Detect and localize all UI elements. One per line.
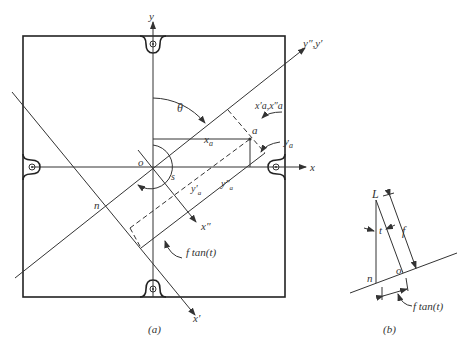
label-L: L (371, 187, 379, 201)
label-t: t (379, 224, 383, 236)
label-x: x (309, 161, 315, 173)
label-x-dprime: x″ (200, 220, 211, 232)
xa-leader (262, 112, 282, 118)
label-s: s (171, 171, 175, 182)
label-xa-prime-dprime: x′a,x″a (254, 100, 283, 111)
label-f-tan-t-b: f tan(t) (413, 300, 444, 313)
label-y: y (148, 10, 154, 22)
ya-leader (261, 142, 280, 152)
label-f-tan-t-a: f tan(t) (186, 246, 217, 259)
line-L-o (376, 200, 403, 273)
label-a: a (252, 124, 258, 136)
label-theta: θ (177, 101, 183, 115)
caption-a: (a) (148, 323, 161, 336)
label-x-prime: x′ (192, 312, 201, 324)
figure-b: L t f n o f tan(t) (b) (350, 187, 457, 336)
photogrammetry-diagram: y x y″,y′ x′ x″ θ o s n a xa ya x′a,x″a … (0, 0, 471, 348)
label-n: n (94, 199, 100, 211)
label-ya-prime: y′a (190, 183, 202, 197)
label-f: f (402, 224, 407, 238)
label-n-b: n (367, 272, 373, 284)
x-prime-axis (12, 92, 195, 315)
y-double-prime-axis (15, 48, 305, 278)
label-o: o (138, 156, 144, 168)
label-ya-dprime: y″a (220, 178, 234, 192)
ftan-leader (165, 241, 182, 258)
label-o-b: o (396, 264, 402, 276)
x-double-prime-axis (138, 150, 196, 222)
xa-perp-dash (228, 110, 265, 153)
label-x-a: xa (203, 133, 213, 148)
ftan-dimension (383, 289, 407, 296)
label-y-dprime-y-prime: y″,y′ (302, 37, 323, 49)
figure-a: y x y″,y′ x′ x″ θ o s n a xa ya x′a,x″a … (12, 10, 323, 336)
caption-b: (b) (383, 323, 396, 336)
